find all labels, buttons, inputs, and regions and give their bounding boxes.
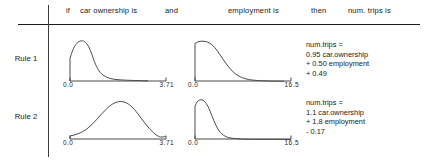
rule-row: Rule 1 0.0 3.71 0.0 16.5: [0, 34, 431, 92]
header-antecedent-1: car ownership is: [80, 6, 137, 15]
consequent-line: + 1.8 employment: [306, 117, 365, 127]
header-then: then: [311, 6, 326, 15]
membership-plot-rule1-car-ownership: 0.0 3.71: [62, 34, 174, 90]
x-axis-tick-min: 0.0: [188, 81, 198, 88]
mf-curve-path: [70, 102, 166, 137]
header-antecedent-2: employment is: [228, 6, 279, 15]
consequent-line: num.trips =: [306, 98, 365, 108]
consequent-line: + 0.50 employment: [306, 59, 369, 69]
fuzzy-rule-table: if car ownership is and employment is th…: [0, 0, 431, 163]
x-axis-tick-min: 0.0: [63, 139, 73, 146]
mf-curve-path: [195, 100, 291, 140]
membership-curve-svg: [187, 34, 299, 90]
consequent-line: num.trips =: [306, 40, 369, 50]
header-and: and: [165, 6, 178, 15]
mf-curve-path: [70, 41, 148, 81]
consequent-line: 0.95 car.ownership: [306, 50, 369, 60]
header-divider-line: [18, 24, 420, 25]
x-axis-tick-max: 3.71: [160, 81, 174, 88]
mf-curve-path: [195, 41, 284, 81]
x-axis-tick-max: 3.71: [160, 139, 174, 146]
membership-plot-rule1-employment: 0.0 16.5: [187, 34, 299, 90]
membership-plot-rule2-employment: 0.0 16.5: [187, 92, 299, 148]
membership-curve-svg: [187, 92, 299, 148]
membership-curve-svg: [62, 92, 174, 148]
rule-consequent: num.trips = 0.95 car.ownership + 0.50 em…: [306, 40, 369, 78]
membership-plot-rule2-car-ownership: 0.0 3.71: [62, 92, 174, 148]
consequent-line: + 0.49: [306, 69, 369, 79]
x-axis-tick-max: 16.5: [285, 139, 299, 146]
consequent-line: 1.1 car.ownership: [306, 108, 365, 118]
rule-label: Rule 2: [8, 112, 44, 121]
rule-row: Rule 2 0.0 3.71 0.0 16.5: [0, 92, 431, 150]
x-axis-tick-max: 16.5: [285, 81, 299, 88]
rule-consequent: num.trips = 1.1 car.ownership + 1.8 empl…: [306, 98, 365, 136]
rule-label: Rule 1: [8, 54, 44, 63]
x-axis-tick-min: 0.0: [188, 139, 198, 146]
consequent-line: - 0.17: [306, 127, 365, 137]
x-axis-tick-min: 0.0: [63, 81, 73, 88]
header-if: if: [66, 6, 70, 15]
membership-curve-svg: [62, 34, 174, 90]
table-header: if car ownership is and employment is th…: [0, 6, 431, 24]
header-consequent: num. trips is: [348, 6, 391, 15]
